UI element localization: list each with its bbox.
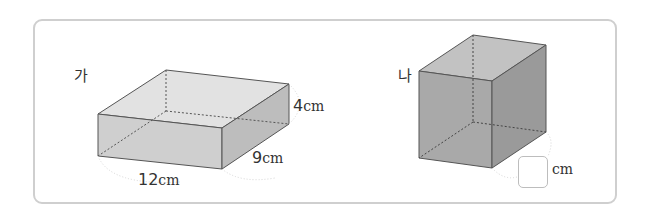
height-value: 4 xyxy=(293,96,303,115)
cuboid-diagrams xyxy=(0,0,650,217)
width-dimension: 9cm xyxy=(252,148,283,167)
answer-unit-text: cm xyxy=(552,161,573,177)
length-unit: cm xyxy=(158,172,179,188)
length-dimension: 12cm xyxy=(138,170,179,189)
height-dimension: 4cm xyxy=(293,96,324,115)
answer-input-box[interactable] xyxy=(518,156,548,188)
width-unit: cm xyxy=(262,150,283,166)
height-unit: cm xyxy=(303,98,324,114)
length-value: 12 xyxy=(138,170,158,189)
figure-a-label: 가 xyxy=(74,64,88,85)
width-value: 9 xyxy=(252,148,262,167)
figure-b-label: 나 xyxy=(398,64,412,85)
answer-unit: cm xyxy=(552,160,573,178)
